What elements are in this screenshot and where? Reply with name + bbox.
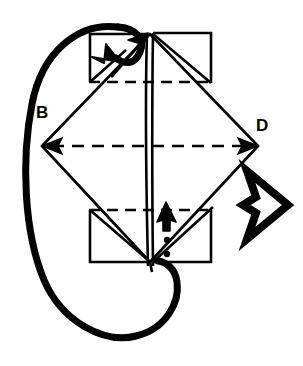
origami-diagram-svg [0, 0, 303, 366]
push-in-dot-2 [164, 251, 170, 257]
origami-diagram-canvas: B D [0, 0, 303, 366]
vertex-label-b: B [36, 104, 48, 121]
vertex-label-d: D [256, 117, 268, 134]
push-in-dot-1 [164, 237, 170, 243]
center-spine-right-line [152, 33, 153, 266]
